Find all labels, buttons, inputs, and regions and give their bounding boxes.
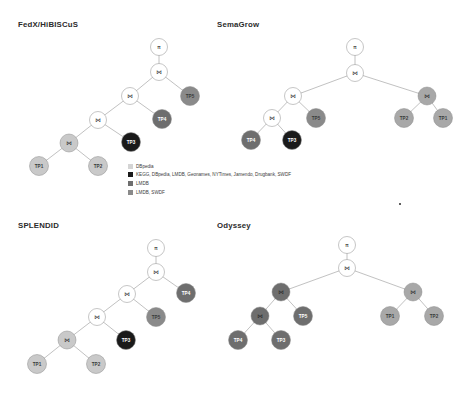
tree-node-join-left-2[interactable]: ⋈ [251, 307, 269, 325]
node-label: ⋈ [424, 93, 430, 99]
tree-node-tp4[interactable]: TP4 [242, 131, 261, 150]
tree-node-join-1[interactable]: ⋈ [339, 260, 356, 277]
figure-canvas: FedX/HiBISCuS SemaGrow SPLENDID Odyssey … [0, 0, 471, 393]
tree-node-tp2[interactable]: TP2 [89, 157, 108, 176]
node-label: ⋈ [94, 314, 100, 320]
tree-node-join-3[interactable]: ⋈ [89, 309, 106, 326]
node-label: TP1 [33, 362, 42, 367]
tree-edge [347, 268, 413, 292]
tree-node-tp2[interactable]: TP2 [87, 355, 106, 374]
node-label: ⋈ [269, 115, 275, 121]
legend-item: LMDB, SWDF [128, 188, 291, 197]
tree-node-tp2[interactable]: TP2 [395, 109, 414, 128]
tree-edge [281, 268, 347, 292]
legend-label: DBpedia [136, 164, 154, 169]
tree-node-tp5[interactable]: TP5 [181, 87, 200, 106]
tree-semagrow: π⋈⋈⋈⋈TP5TP2TP1TP4TP3 [242, 39, 453, 150]
tree-node-join-right[interactable]: ⋈ [418, 87, 436, 105]
node-label: TP4 [158, 117, 167, 122]
tree-edge [355, 73, 427, 96]
node-label: TP2 [430, 314, 439, 319]
legend-label: LMDB, SWDF [136, 190, 165, 195]
tree-node-tp1[interactable]: TP1 [30, 157, 49, 176]
node-label: TP5 [152, 315, 161, 320]
tree-node-join-2[interactable]: ⋈ [119, 286, 136, 303]
tree-node-tp3[interactable]: TP3 [283, 131, 302, 150]
tree-edge [293, 73, 355, 96]
node-label: ⋈ [278, 289, 284, 295]
tree-node-join-2[interactable]: ⋈ [285, 88, 302, 105]
tree-node-join-4[interactable]: ⋈ [58, 331, 76, 349]
node-label: TP1 [35, 164, 44, 169]
node-label: TP2 [400, 116, 409, 121]
stray-marker [399, 203, 401, 205]
legend-swatch-icon [128, 181, 133, 186]
tree-node-tp5[interactable]: TP5 [294, 307, 313, 326]
legend-label: LMDB [136, 181, 149, 186]
node-label: ⋈ [290, 93, 296, 99]
legend-item: LMDB [128, 179, 291, 188]
node-label: ⋈ [127, 93, 133, 99]
tree-node-tp5[interactable]: TP5 [307, 109, 326, 128]
tree-node-root-projection[interactable]: π [347, 39, 364, 56]
tree-node-tp3[interactable]: TP3 [117, 331, 136, 350]
node-label: TP3 [127, 140, 136, 145]
node-label: ⋈ [95, 117, 101, 123]
tree-node-tp1[interactable]: TP1 [381, 307, 400, 326]
legend-swatch-icon [128, 190, 133, 195]
tree-fedx: π⋈⋈TP5⋈TP4⋈TP3TP1TP2 [30, 39, 200, 176]
tree-node-root-projection[interactable]: π [339, 237, 356, 254]
tree-node-join-3[interactable]: ⋈ [90, 112, 107, 129]
legend: DBpediaKEGG, DBpedia, LMDB, Geonames, NY… [128, 162, 291, 196]
node-label: TP1 [439, 116, 448, 121]
node-label: TP4 [234, 338, 243, 343]
node-label: ⋈ [352, 70, 358, 76]
tree-node-join-4[interactable]: ⋈ [60, 134, 78, 152]
tree-node-join-1[interactable]: ⋈ [347, 65, 364, 82]
node-label: TP5 [312, 116, 321, 121]
legend-swatch-icon [128, 164, 133, 169]
node-label: ⋈ [156, 69, 162, 75]
node-label: ⋈ [66, 140, 72, 146]
tree-node-tp3[interactable]: TP3 [122, 133, 141, 152]
tree-node-tp4[interactable]: TP4 [153, 110, 172, 129]
node-label: ⋈ [257, 313, 263, 319]
node-label: ⋈ [124, 291, 130, 297]
node-label: ⋈ [153, 269, 159, 275]
node-label: TP5 [299, 314, 308, 319]
tree-node-root-projection[interactable]: π [148, 240, 165, 257]
node-label: TP4 [247, 138, 256, 143]
tree-node-join-right[interactable]: ⋈ [404, 283, 422, 301]
tree-node-tp4[interactable]: TP4 [229, 331, 248, 350]
legend-label: KEGG, DBpedia, LMDB, Geonames, NYTimes, … [136, 172, 291, 177]
tree-node-tp5[interactable]: TP5 [147, 308, 166, 327]
tree-node-tp1[interactable]: TP1 [434, 109, 453, 128]
tree-node-join-left[interactable]: ⋈ [272, 283, 290, 301]
tree-node-join-3[interactable]: ⋈ [264, 110, 281, 127]
node-label: TP4 [182, 291, 191, 296]
node-label: TP3 [288, 138, 297, 143]
node-label: ⋈ [64, 337, 70, 343]
tree-node-tp2[interactable]: TP2 [425, 307, 444, 326]
tree-edges [37, 248, 186, 364]
tree-node-join-2[interactable]: ⋈ [122, 88, 139, 105]
tree-edges [251, 47, 443, 140]
legend-swatch-icon [128, 172, 133, 177]
legend-item: KEGG, DBpedia, LMDB, Geonames, NYTimes, … [128, 171, 291, 180]
tree-node-join-1[interactable]: ⋈ [151, 64, 168, 81]
query-plan-trees: π⋈⋈TP5⋈TP4⋈TP3TP1TP2π⋈⋈⋈⋈TP5TP2TP1TP4TP3… [0, 0, 471, 393]
tree-node-join-1[interactable]: ⋈ [148, 264, 165, 281]
tree-node-tp1[interactable]: TP1 [28, 355, 47, 374]
tree-node-tp3[interactable]: TP3 [272, 331, 291, 350]
node-label: ⋈ [344, 265, 350, 271]
node-label: TP2 [92, 362, 101, 367]
node-label: TP1 [386, 314, 395, 319]
tree-node-tp4[interactable]: TP4 [177, 284, 196, 303]
node-label: TP3 [122, 338, 131, 343]
node-label: TP5 [186, 94, 195, 99]
node-label: TP3 [277, 338, 286, 343]
tree-odyssey: π⋈⋈⋈⋈TP5TP1TP2TP4TP3 [229, 237, 444, 350]
legend-item: DBpedia [128, 162, 291, 171]
node-label: TP2 [94, 164, 103, 169]
tree-node-root-projection[interactable]: π [151, 39, 168, 56]
